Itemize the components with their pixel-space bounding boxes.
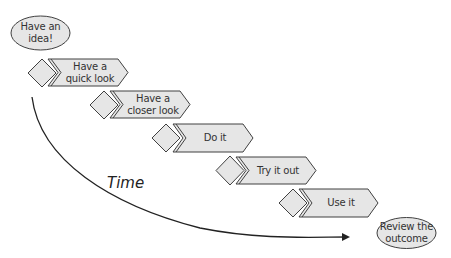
step-4-label: Try it out [249, 157, 307, 184]
step-3-label: Do it [186, 124, 244, 152]
step-1-label: Have a quick look [62, 59, 118, 86]
time-label: Time [107, 174, 144, 192]
end-label: Review the outcome [377, 218, 436, 248]
step-5-label: Use it [312, 189, 370, 217]
start-label: Have an idea! [11, 16, 70, 50]
step-2-label: Have a closer look [124, 91, 182, 118]
